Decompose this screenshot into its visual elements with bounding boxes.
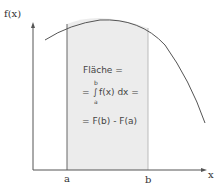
y-axis-label: f(x) (4, 8, 21, 19)
x-axis-arrow-icon (201, 168, 207, 172)
integral-diagram: f(x) x a b Fläche = b = ∫ f(x) dx = a = … (0, 0, 223, 193)
lower-bound-label: a (64, 173, 70, 184)
formula-line-2-prefix: = (82, 87, 90, 97)
integral-upper-limit: b (94, 79, 98, 86)
upper-bound-label: b (145, 174, 151, 185)
x-axis-label: x (208, 169, 214, 180)
integral-symbol: ∫ (93, 87, 98, 97)
formula-line-1: Fläche = (83, 65, 123, 75)
integral-lower-limit: a (94, 98, 98, 105)
y-axis-arrow-icon (31, 22, 35, 28)
formula-line-3: = F(b) - F(a) (82, 116, 137, 126)
formula-line-2-body: f(x) dx = (99, 87, 139, 97)
